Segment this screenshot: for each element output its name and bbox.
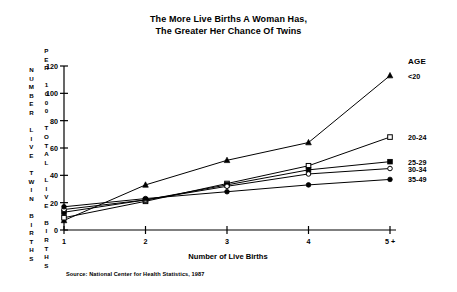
legend: AGE <2020-2425-2930-3435-49 <box>404 0 457 292</box>
data-point-marker <box>225 189 230 194</box>
legend-item-30-34[interactable]: 30-34 <box>408 165 426 174</box>
y-axis-tick-label: 40 <box>36 171 58 180</box>
data-point-marker <box>388 159 393 164</box>
y-axis-tick-label: 0 <box>36 226 58 235</box>
data-point-marker <box>388 135 393 140</box>
data-point-marker <box>387 72 393 77</box>
x-axis-tick-label: 2 <box>134 237 158 246</box>
chart-title: The More Live Births A Woman Has, The Gr… <box>0 14 457 37</box>
y-axis-tick-label: 120 <box>36 62 58 71</box>
y-axis-label-inner-gap <box>41 210 52 219</box>
data-point-marker <box>388 166 393 171</box>
legend-item-20[interactable]: <20 <box>408 72 420 81</box>
y-axis-label-outer-gap <box>26 161 37 170</box>
x-axis-tick-label: 3 <box>215 237 239 246</box>
y-axis-label-inner-gap <box>41 73 52 82</box>
series-line <box>64 137 390 218</box>
y-axis-label-outer-char: E <box>26 152 37 161</box>
y-axis-label-outer-char: I <box>26 186 37 195</box>
x-axis-tick-label: 1 <box>52 237 76 246</box>
chart-page: The More Live Births A Woman Has, The Gr… <box>0 0 457 292</box>
legend-title: AGE <box>408 57 426 66</box>
y-axis-tick-label: 80 <box>36 117 58 126</box>
chart-svg <box>56 60 400 238</box>
y-axis-label-outer-char: S <box>26 255 37 264</box>
source-note: Source: National Center for Health Stati… <box>66 271 204 277</box>
y-axis-label-inner-char: P <box>41 47 52 56</box>
y-axis-label-inner-char: S <box>41 262 52 271</box>
x-axis-tick-label: 5 + <box>378 237 402 246</box>
y-axis-tick-label: 20 <box>36 199 58 208</box>
chart-title-line-1: The More Live Births A Woman Has, <box>0 14 457 26</box>
y-axis-label-outer-char: H <box>26 246 37 255</box>
y-axis-label-outer-char: U <box>26 75 37 84</box>
series-20-24 <box>62 135 393 220</box>
y-axis-label-outer-char: I <box>26 135 37 144</box>
legend-item-20-24[interactable]: 20-24 <box>408 133 426 142</box>
y-axis-label-inner-char: O <box>41 133 52 142</box>
data-point-marker <box>388 177 393 182</box>
data-point-marker <box>143 196 148 201</box>
x-axis-title: Number of Live Births <box>56 252 400 261</box>
y-axis-tick-label: 60 <box>36 144 58 153</box>
y-axis-label-inner: PER1000TOTALLIVEBIRTHS <box>41 47 52 270</box>
y-axis-tick-label: 100 <box>36 89 58 98</box>
y-axis-label-outer-char: B <box>26 212 37 221</box>
data-point-marker <box>62 204 67 209</box>
legend-item-35-49[interactable]: 35-49 <box>408 175 426 184</box>
chart-title-line-2: The Greater Her Chance Of Twins <box>0 26 457 38</box>
series-line <box>64 76 390 221</box>
data-point-marker <box>62 215 67 220</box>
series-20 <box>61 72 393 222</box>
data-point-marker <box>225 184 230 189</box>
y-axis-label-inner-char: I <box>41 185 52 194</box>
x-axis-tick-label: 4 <box>297 237 321 246</box>
data-point-marker <box>306 139 312 144</box>
y-axis-label-inner-char: R <box>41 236 52 245</box>
data-point-marker <box>306 183 311 188</box>
plot-area <box>56 60 400 238</box>
y-axis-label-outer-char: T <box>26 238 37 247</box>
y-axis-label-inner-char: H <box>41 253 52 262</box>
y-axis-label-inner-char: 0 <box>41 107 52 116</box>
y-axis-label-inner-char: T <box>41 245 52 254</box>
y-axis-label-outer-char: E <box>26 100 37 109</box>
y-axis-label-inner-char: L <box>41 159 52 168</box>
data-point-marker <box>306 172 311 177</box>
y-axis-label-outer-char: L <box>26 126 37 135</box>
y-axis-label-inner-char: 0 <box>41 99 52 108</box>
